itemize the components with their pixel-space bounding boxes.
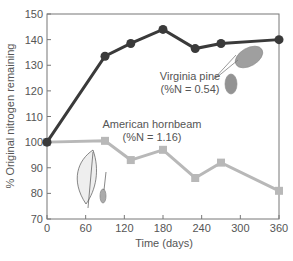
y-tick-label: 120 (25, 85, 43, 97)
x-tick-label: 120 (115, 222, 133, 234)
data-point (159, 146, 167, 154)
x-tick-label: 300 (231, 222, 249, 234)
x-axis-label: Time (days) (135, 237, 193, 249)
data-point (217, 39, 226, 48)
y-tick-label: 130 (25, 59, 43, 71)
x-tick-label: 240 (192, 222, 210, 234)
y-tick-label: 140 (25, 34, 43, 46)
x-tick-label: 0 (44, 222, 50, 234)
x-tick-label: 360 (270, 222, 288, 234)
x-tick-label: 60 (80, 222, 92, 234)
data-point (275, 187, 283, 195)
y-tick-label: 80 (31, 187, 43, 199)
data-point (43, 138, 52, 147)
data-point (191, 174, 199, 182)
data-point (275, 35, 284, 44)
data-point (101, 52, 110, 61)
data-point (159, 25, 168, 34)
pine-cone-illustration-icon (213, 42, 266, 94)
y-tick-label: 150 (25, 8, 43, 20)
pine-label: Virginia pine (160, 70, 220, 82)
y-axis-label: % Original nitrogen remaining (4, 44, 16, 189)
y-tick-label: 100 (25, 136, 43, 148)
data-point (101, 137, 109, 145)
data-point (191, 44, 200, 53)
x-tick-label: 180 (154, 222, 172, 234)
data-point (127, 156, 135, 164)
y-tick-label: 110 (25, 111, 43, 123)
y-tick-label: 90 (31, 162, 43, 174)
pine-note: (%N = 0.54) (161, 83, 220, 95)
data-point (126, 39, 135, 48)
hornbeam-label: American hornbeam (102, 118, 201, 130)
hornbeam-note: (%N = 1.16) (123, 131, 182, 143)
nitrogen-chart: 7080901001101201301401500601201802403003… (0, 0, 293, 261)
hornbeam-leaf-illustration-icon (77, 150, 106, 208)
data-point (217, 159, 225, 167)
y-tick-label: 70 (31, 213, 43, 225)
